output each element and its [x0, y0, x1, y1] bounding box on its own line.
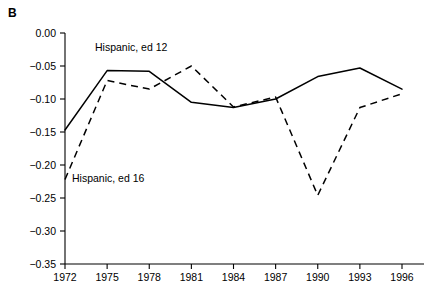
series-label-hispanic-ed-12: Hispanic, ed 12	[95, 41, 168, 53]
x-axis-tick-labels: 197219751978198119841987199019931996	[53, 271, 414, 283]
y-tick-label: −0.15	[29, 126, 56, 138]
series-label-hispanic-ed-16: Hispanic, ed 16	[72, 172, 145, 184]
y-tick-label: −0.35	[29, 258, 56, 270]
x-tick-label: 1984	[222, 271, 246, 283]
x-tick-label: 1981	[180, 271, 204, 283]
x-tick-label: 1996	[390, 271, 414, 283]
chart-panel: B 0.00−0.05−0.10−0.15−0.20−0.25−0.30−0.3…	[0, 0, 439, 284]
x-tick-label: 1972	[53, 271, 77, 283]
y-tick-label: −0.20	[29, 159, 56, 171]
series-line-hispanic-ed-12	[65, 68, 402, 130]
x-tick-label: 1978	[138, 271, 162, 283]
y-axis-tick-labels: 0.00−0.05−0.10−0.15−0.20−0.25−0.30−0.35	[29, 27, 56, 270]
y-tick-label: −0.05	[29, 60, 56, 72]
y-axis-ticks	[60, 33, 65, 264]
y-tick-label: 0.00	[36, 27, 57, 39]
y-tick-label: −0.30	[29, 225, 56, 237]
y-tick-label: −0.10	[29, 93, 56, 105]
line-chart: 0.00−0.05−0.10−0.15−0.20−0.25−0.30−0.35 …	[0, 0, 439, 284]
x-tick-label: 1987	[264, 271, 288, 283]
x-tick-label: 1993	[348, 271, 372, 283]
x-tick-label: 1990	[306, 271, 330, 283]
y-tick-label: −0.25	[29, 192, 56, 204]
x-tick-label: 1975	[95, 271, 119, 283]
x-axis-ticks	[65, 264, 402, 269]
